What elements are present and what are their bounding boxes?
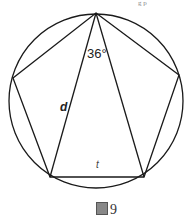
diagonal-left bbox=[50, 13, 96, 177]
top-text-fragment: g p bbox=[138, 0, 147, 7]
side-label: t bbox=[96, 160, 99, 170]
pentagon bbox=[13, 13, 179, 177]
caption-number: 9 bbox=[110, 202, 117, 217]
inscribed-pentagon-diagram bbox=[0, 0, 185, 218]
diagonal-right bbox=[96, 13, 144, 177]
figure-glyph-icon bbox=[96, 202, 108, 215]
figure-caption: 9 bbox=[96, 202, 117, 217]
diagonal-label: d bbox=[60, 101, 67, 113]
angle-label: 36° bbox=[87, 47, 107, 60]
